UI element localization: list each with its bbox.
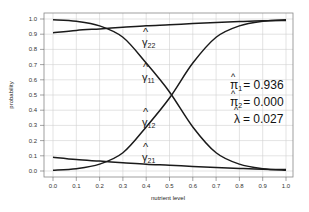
x-tick-label: 0.5 — [165, 183, 174, 189]
x-tick-label: 0.1 — [72, 183, 81, 189]
x-tick-label: 0.7 — [212, 183, 221, 189]
y-tick-label: 0.9 — [29, 31, 38, 37]
curve-label-gamma21: ^ γ21 — [142, 141, 155, 164]
x-tick-label: 0.8 — [235, 183, 244, 189]
y-tick-label: 0.2 — [29, 138, 38, 144]
svg-text:γ21: γ21 — [142, 151, 155, 164]
y-tick-label: 0.6 — [29, 77, 38, 83]
x-tick-label: 0.0 — [49, 183, 58, 189]
curve-label-gamma22: ^ γ22 — [142, 26, 155, 49]
x-tick-label: 0.6 — [189, 183, 198, 189]
y-tick-label: 1.0 — [29, 16, 38, 22]
y-axis-title: probability — [8, 81, 14, 108]
probability-chart: 0.00.10.20.30.40.50.60.70.80.91.0 0.00.1… — [0, 0, 309, 212]
svg-text:λ= 0.027: λ= 0.027 — [234, 112, 284, 126]
y-tick-label: 0.8 — [29, 46, 38, 52]
svg-text:γ11: γ11 — [142, 71, 155, 84]
y-axis: 0.00.10.20.30.40.50.60.70.80.91.0 — [29, 16, 44, 174]
x-tick-label: 0.9 — [259, 183, 268, 189]
x-tick-label: 1.0 — [282, 183, 291, 189]
y-tick-label: 0.1 — [29, 153, 38, 159]
x-tick-label: 0.3 — [119, 183, 128, 189]
y-tick-label: 0.3 — [29, 122, 38, 128]
y-tick-label: 0.4 — [29, 107, 38, 113]
y-tick-label: 0.7 — [29, 62, 38, 68]
y-tick-label: 0.5 — [29, 92, 38, 98]
x-axis: 0.00.10.20.30.40.50.60.70.80.91.0 — [49, 177, 291, 189]
svg-text:γ22: γ22 — [142, 36, 155, 49]
x-tick-label: 0.2 — [95, 183, 104, 189]
svg-text:π1= 0.936: π1= 0.936 — [230, 78, 284, 92]
param-pi1: π1= 0.936 ^ — [230, 72, 284, 92]
x-axis-title: nutrient level — [151, 195, 185, 201]
y-tick-label: 0.0 — [29, 168, 38, 174]
x-tick-label: 0.4 — [142, 183, 151, 189]
